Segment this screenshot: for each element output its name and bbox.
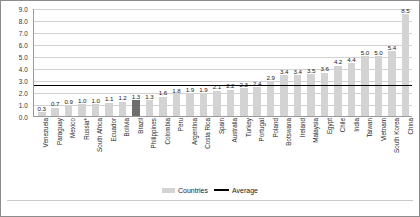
- bar: [200, 93, 208, 116]
- x-label-slot: Venezuela: [34, 118, 48, 180]
- bar: [253, 87, 261, 116]
- y-axis-tick-label: 7.0: [19, 30, 28, 37]
- bar-slot: 1.1: [102, 9, 115, 116]
- bar: [334, 66, 342, 116]
- bar-value-label: 3.4: [293, 68, 301, 75]
- bar-value-label: 1.0: [91, 97, 99, 104]
- bar-slot: 1.8: [170, 9, 183, 116]
- x-label-slot: Costa Rica: [196, 118, 210, 180]
- x-label-slot: Turkey: [237, 118, 251, 180]
- x-label-slot: India: [345, 118, 359, 180]
- y-axis-tick-label: 3.0: [19, 78, 28, 85]
- bar-series: 0.30.70.91.01.01.11.21.31.31.61.81.91.92…: [35, 9, 412, 116]
- bar-slot: 2.2: [224, 9, 237, 116]
- x-label-slot: Philippines: [142, 118, 156, 180]
- bar-value-label: 1.6: [159, 89, 167, 96]
- x-label-slot: Argentina: [183, 118, 197, 180]
- bar: [105, 103, 113, 116]
- bar-value-label: 5.0: [374, 49, 382, 56]
- x-label-slot: South Korea: [385, 118, 399, 180]
- x-label-slot: Vietnam: [372, 118, 386, 180]
- bar: [92, 104, 100, 116]
- x-label-slot: Spain: [210, 118, 224, 180]
- x-label-slot: Portugal: [250, 118, 264, 180]
- legend-line-swatch: [214, 189, 229, 191]
- bar: [402, 14, 410, 116]
- average-line: [34, 85, 412, 87]
- y-axis-tick-label: 9.0: [19, 6, 28, 13]
- x-label-slot: Mexico: [61, 118, 75, 180]
- bar-value-label: 1.3: [132, 93, 140, 100]
- bar: [146, 100, 154, 116]
- bar-slot: 1.3: [129, 9, 142, 116]
- bar-value-label: 3.5: [307, 67, 315, 74]
- bar: [240, 88, 248, 116]
- y-axis-tick-label: 4.0: [19, 66, 28, 73]
- x-label-slot: Brazil: [129, 118, 143, 180]
- bar-slot: 2.1: [210, 9, 223, 116]
- bar-slot: 2.4: [251, 9, 264, 116]
- y-axis-tick-label: 1.0: [19, 102, 28, 109]
- bar-slot: 1.9: [197, 9, 210, 116]
- bar: [213, 91, 221, 116]
- bar-value-label: 1.1: [105, 95, 113, 102]
- y-axis-tick-label: 8.0: [19, 18, 28, 25]
- x-label-slot: Bolivia: [115, 118, 129, 180]
- bar-slot: 1.0: [89, 9, 102, 116]
- plot-area: 0.30.70.91.01.01.11.21.31.31.61.81.91.92…: [33, 9, 412, 117]
- bar-value-label: 5.4: [388, 44, 396, 51]
- y-axis-tick-label: 0.0: [19, 114, 28, 121]
- bar-slot: 0.3: [35, 9, 48, 116]
- bar: [159, 97, 167, 116]
- bar: [38, 112, 46, 116]
- bar-slot: 5.0: [358, 9, 371, 116]
- x-label-slot: Ecuador: [102, 118, 116, 180]
- x-label-slot: Australia: [223, 118, 237, 180]
- bar-value-label: 1.9: [199, 86, 207, 93]
- bar-highlighted: [132, 100, 140, 116]
- legend-entry[interactable]: Countries: [162, 187, 208, 194]
- x-label-slot: South Africa: [88, 118, 102, 180]
- bar: [173, 94, 181, 116]
- bar-slot: 3.6: [318, 9, 331, 116]
- legend-entry[interactable]: Average: [214, 187, 258, 194]
- bar-value-label: 1.2: [118, 94, 126, 101]
- bar: [267, 81, 275, 116]
- bar-slot: 0.7: [48, 9, 61, 116]
- x-label-slot: Russia*: [75, 118, 89, 180]
- bar-slot: 1.9: [183, 9, 196, 116]
- bar: [78, 104, 86, 116]
- bar: [388, 51, 396, 116]
- bar: [307, 74, 315, 116]
- bar-value-label: 1.3: [145, 93, 153, 100]
- x-label-slot: Egypt: [318, 118, 332, 180]
- x-label-slot: Botswana: [277, 118, 291, 180]
- x-label-slot: China: [399, 118, 413, 180]
- x-label-slot: Ireland: [291, 118, 305, 180]
- bar: [65, 105, 73, 116]
- bar-slot: 8.5: [399, 9, 412, 116]
- bar-slot: 5.4: [385, 9, 398, 116]
- legend-label: Average: [232, 187, 258, 194]
- bar: [321, 73, 329, 116]
- bar: [227, 90, 235, 116]
- x-label-slot: Paraguay: [48, 118, 62, 180]
- bar-slot: 3.5: [304, 9, 317, 116]
- bar-value-label: 1.0: [78, 97, 86, 104]
- bar-value-label: 0.7: [51, 100, 59, 107]
- y-axis-tick-label: 2.0: [19, 90, 28, 97]
- bar-slot: 1.2: [116, 9, 129, 116]
- x-label-slot: Poland: [264, 118, 278, 180]
- x-label-slot: Colombia: [156, 118, 170, 180]
- bar-value-label: 2.9: [267, 74, 275, 81]
- bar-value-label: 4.4: [347, 56, 355, 63]
- x-label-slot: Peru: [169, 118, 183, 180]
- bar-slot: 4.2: [331, 9, 344, 116]
- y-axis: 9.08.07.06.05.04.03.02.01.00.0: [1, 9, 31, 117]
- bar-value-label: 1.8: [172, 87, 180, 94]
- bar-slot: 1.6: [156, 9, 169, 116]
- bar-slot: 0.9: [62, 9, 75, 116]
- bar-slot: 1.3: [143, 9, 156, 116]
- bar-value-label: 5.0: [361, 49, 369, 56]
- bar: [186, 93, 194, 116]
